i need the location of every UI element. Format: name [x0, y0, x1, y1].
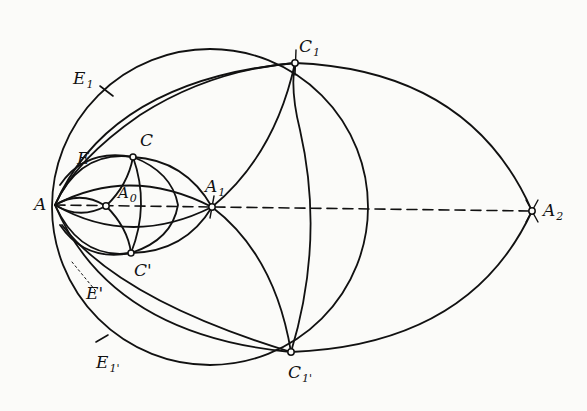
arc-A2-C1p: [291, 211, 532, 352]
lens-lower-inner: [55, 205, 212, 227]
label-A0: A0: [118, 186, 137, 204]
label-A2: A2: [543, 202, 563, 222]
point-A1-marker: [209, 204, 215, 210]
label-Cp-text: C': [134, 260, 152, 280]
point-C1p-marker: [288, 349, 294, 355]
label-A2-sub: 2: [556, 210, 563, 223]
label-E1p-text: E: [96, 352, 108, 372]
label-C1p-sub: 1': [302, 372, 312, 385]
label-C1p-text: C: [288, 362, 301, 382]
point-C1-marker: [292, 60, 298, 66]
arc-A0-Cp: [106, 206, 131, 253]
axis-line: [55, 205, 532, 211]
label-E1-text: E: [73, 68, 85, 88]
label-C1-text: C: [299, 36, 312, 56]
label-A0-text: A: [118, 184, 129, 202]
label-C: C: [140, 132, 153, 149]
label-E1p-sub: 1': [109, 362, 119, 375]
label-E1-sub: 1: [86, 78, 93, 91]
label-C1-sub: 1: [313, 46, 320, 59]
label-A0-sub: 0: [130, 192, 137, 205]
label-A1: A1: [205, 178, 225, 198]
label-C-text: C: [140, 130, 153, 150]
label-A2-text: A: [543, 200, 555, 220]
geometric-diagram: A A0 A1 A2 C C' C1 C1' E E' E1 E1': [0, 0, 587, 411]
label-C1p: C1': [288, 364, 312, 384]
label-A1-sub: 1: [218, 186, 225, 199]
point-A2-marker: [529, 208, 535, 214]
label-Cp: C': [134, 262, 152, 279]
label-Ep: E': [86, 285, 103, 302]
arc-C-Cp-left: [131, 157, 141, 253]
arc-A1-C1p: [212, 207, 291, 352]
tick-E1p: [96, 335, 108, 342]
label-E1p: E1': [96, 354, 119, 374]
construction-drawing: [0, 0, 587, 411]
small-lens-lower: [55, 205, 106, 213]
label-A-text: A: [34, 194, 46, 214]
point-A0-marker: [103, 203, 109, 209]
label-Ep-text: E': [86, 283, 103, 303]
point-C-marker: [130, 154, 136, 160]
label-E1: E1: [73, 70, 93, 90]
label-A: A: [34, 196, 46, 213]
label-E: E: [77, 150, 89, 167]
arc-C1p-A: [55, 205, 291, 352]
label-C1: C1: [299, 38, 320, 58]
label-E-text: E: [77, 148, 89, 168]
arc-C1-A2: [295, 63, 532, 211]
point-Cp-marker: [128, 250, 134, 256]
label-A1-text: A: [205, 176, 217, 196]
